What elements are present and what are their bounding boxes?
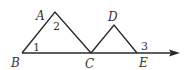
geometry-figure: A B C D E 1 2 3 [0,0,184,70]
triangle-cde [91,25,137,53]
angle-1-label: 1 [33,41,40,54]
label-c: C [85,57,94,70]
angle-3-label: 3 [141,40,148,53]
diagram-canvas: A B C D E 1 2 3 [0,0,184,70]
label-b: B [10,56,20,70]
label-d: D [107,10,118,24]
label-a: A [35,9,45,23]
angle-2-label: 2 [53,20,60,33]
label-e: E [138,56,148,70]
